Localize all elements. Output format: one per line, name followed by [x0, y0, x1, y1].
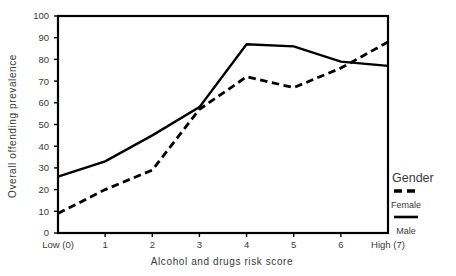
- y-axis-title: Overall offending prevalence: [7, 54, 18, 198]
- y-tick-label: 70: [38, 76, 49, 87]
- x-tick-label: 5: [291, 239, 296, 250]
- x-tick-label: 3: [197, 239, 202, 250]
- legend-entries: FemaleMale: [391, 191, 421, 236]
- x-tick-label: Low (0): [42, 239, 74, 250]
- y-tick-label: 60: [38, 97, 49, 108]
- y-tick-label: 90: [38, 32, 49, 43]
- series-line-male: [58, 44, 388, 176]
- y-tick-label: 30: [38, 162, 49, 173]
- x-tick-label: High (7): [371, 239, 405, 250]
- data-series-group: [58, 42, 388, 213]
- plot-frame: [58, 16, 388, 233]
- y-axis-tick-labels: 0102030405060708090100: [33, 10, 49, 238]
- x-tick-label: 2: [150, 239, 155, 250]
- y-tick-label: 10: [38, 206, 49, 217]
- x-axis-tick-labels: Low (0)123456High (7): [42, 239, 405, 250]
- y-tick-label: 0: [44, 227, 49, 238]
- series-line-female: [58, 42, 388, 213]
- y-tick-label: 50: [38, 119, 49, 130]
- x-axis-title: Alcohol and drugs risk score: [151, 256, 293, 267]
- x-tick-label: 4: [244, 239, 249, 250]
- legend-label-male: Male: [396, 226, 416, 236]
- legend-label-female: Female: [391, 200, 421, 210]
- legend-title: Gender: [392, 171, 434, 185]
- chart-figure: 0102030405060708090100 Low (0)123456High…: [0, 0, 456, 276]
- x-tick-label: 1: [102, 239, 107, 250]
- x-tick-label: 6: [338, 239, 343, 250]
- y-tick-label: 40: [38, 141, 49, 152]
- legend: Gender FemaleMale: [391, 171, 434, 236]
- y-tick-label: 100: [33, 10, 49, 21]
- line-chart: 0102030405060708090100 Low (0)123456High…: [0, 0, 456, 276]
- y-tick-label: 80: [38, 54, 49, 65]
- y-tick-label: 20: [38, 184, 49, 195]
